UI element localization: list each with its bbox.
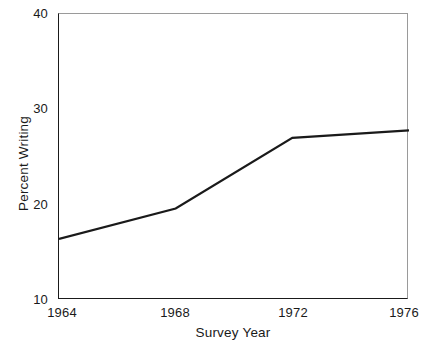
- y-axis-title: Percent Writing: [16, 69, 31, 259]
- plot-area: [58, 13, 408, 299]
- x-axis-tick-label: 1968: [140, 306, 210, 320]
- x-axis-tick-label: 1964: [27, 306, 97, 320]
- x-axis-tick-label: 1972: [258, 306, 328, 320]
- x-axis-tick-label: 1976: [369, 306, 430, 320]
- plot-svg: [59, 14, 409, 300]
- y-axis-tick-label: 40: [8, 7, 48, 20]
- y-axis-tick-label: 10: [8, 293, 48, 306]
- data-series-line: [59, 130, 409, 239]
- line-chart-figure: 40 30 20 10 1964 1968 1972 1976 Survey Y…: [0, 0, 430, 350]
- x-axis-title: Survey Year: [58, 325, 408, 340]
